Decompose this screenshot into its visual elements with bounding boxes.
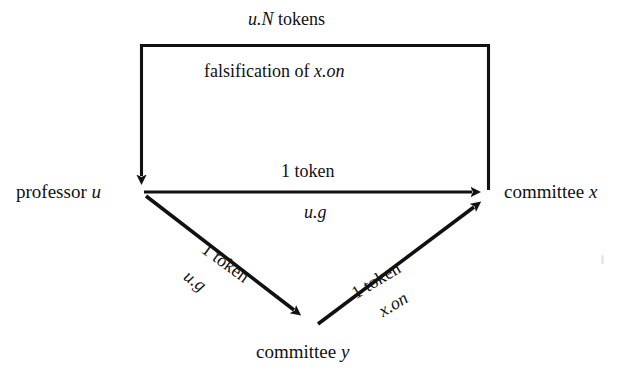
node-committee-y-text: committee — [256, 341, 341, 362]
edge-label-falsification: falsification of x.on — [204, 62, 344, 80]
edge-label-uto-x-above: 1 token — [281, 162, 335, 180]
node-committee-x: committee x — [504, 182, 597, 201]
scan-artifact — [601, 255, 604, 264]
edge-label-un-tokens-suffix: tokens — [274, 9, 326, 29]
node-professor-u-symbol: u — [91, 181, 101, 202]
edge-label-falsification-text: falsification of — [204, 61, 314, 81]
diagram-canvas: u.N tokens falsification of x.on 1 token… — [0, 0, 636, 375]
node-committee-x-text: committee — [504, 181, 589, 202]
node-committee-y-symbol: y — [341, 341, 349, 362]
node-professor-u: professor u — [16, 182, 101, 201]
node-professor-u-text: professor — [16, 181, 91, 202]
edge-label-un-tokens-symbol: u.N — [248, 9, 274, 29]
edge-label-uto-x-below: u.g — [304, 203, 327, 221]
edge-label-falsification-symbol: x.on — [314, 61, 345, 81]
node-committee-x-symbol: x — [589, 181, 597, 202]
edge-label-un-tokens: u.N tokens — [248, 10, 325, 28]
node-committee-y: committee y — [256, 342, 349, 361]
